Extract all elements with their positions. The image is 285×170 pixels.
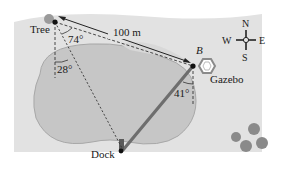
- point-b-label: B: [196, 44, 203, 56]
- compass-east: E: [259, 35, 265, 46]
- angle-28-label: 28°: [57, 63, 72, 75]
- dock-label: Dock: [91, 148, 115, 160]
- compass-south: S: [242, 52, 248, 63]
- angle-41-label: 41°: [174, 87, 189, 99]
- point-b: [190, 63, 195, 68]
- gazebo-icon: [199, 59, 215, 73]
- gazebo-label: Gazebo: [210, 73, 244, 85]
- tree-point: [52, 19, 57, 24]
- compass-west: W: [222, 35, 232, 46]
- lake-diagram: Tree 100 m 74° 28° B Gazebo 41° Dock N S…: [0, 0, 285, 170]
- dock-post: [119, 139, 124, 150]
- tree-label: Tree: [30, 23, 50, 35]
- angle-74-label: 74°: [68, 33, 83, 45]
- dock-point: [119, 149, 124, 154]
- distance-label: 100 m: [113, 26, 141, 38]
- compass-north: N: [242, 18, 249, 29]
